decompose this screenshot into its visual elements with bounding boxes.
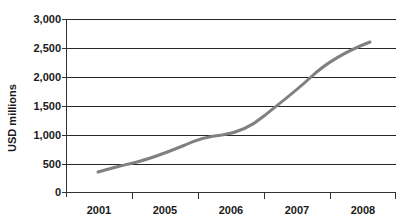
- y-tick-label-1500: 1,500: [33, 100, 61, 112]
- x-tick-label-2008: 2008: [351, 204, 375, 216]
- y-tick-label-2500: 2,500: [33, 42, 61, 54]
- x-tick-label-2005: 2005: [153, 204, 177, 216]
- y-tick-label-0: 0: [55, 186, 61, 198]
- x-tick-label-2007: 2007: [285, 204, 309, 216]
- y-tick-label-500: 500: [43, 158, 61, 170]
- y-axis-title: USD millions: [6, 84, 18, 152]
- chart-canvas: USD millions 3,000 2,500 2,000 1,500 1,0…: [0, 0, 413, 224]
- y-tick-label-3000: 3,000: [33, 13, 61, 25]
- y-tick-label-1000: 1,000: [33, 129, 61, 141]
- line-chart: USD millions 3,000 2,500 2,000 1,500 1,0…: [0, 0, 413, 224]
- x-tick-label-2001: 2001: [87, 204, 111, 216]
- x-tick-label-2006: 2006: [219, 204, 243, 216]
- y-tick-label-2000: 2,000: [33, 71, 61, 83]
